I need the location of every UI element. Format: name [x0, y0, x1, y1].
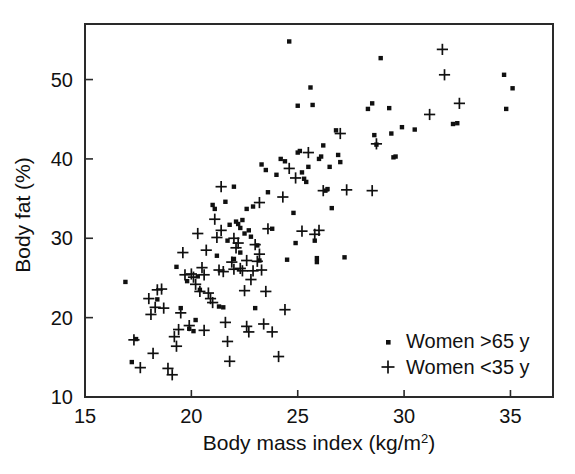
data-point-plus	[277, 191, 288, 202]
data-point-square	[213, 207, 217, 211]
data-point-plus	[243, 326, 254, 337]
data-point-square	[510, 86, 514, 90]
data-point-square	[291, 211, 295, 215]
data-point-square	[210, 203, 214, 207]
data-point-plus	[179, 269, 190, 280]
x-tick-label: 35	[499, 405, 521, 427]
data-point-square	[308, 85, 312, 89]
data-point-square	[191, 329, 195, 333]
data-point-square	[336, 153, 340, 157]
data-point-plus	[203, 287, 214, 298]
data-point-plus	[284, 163, 295, 174]
data-point-square	[300, 170, 304, 174]
y-tick-label: 20	[51, 307, 73, 329]
data-point-plus	[199, 325, 210, 336]
x-tick-label: 15	[74, 405, 96, 427]
data-point-square	[259, 162, 263, 166]
data-point-plus	[209, 214, 220, 225]
legend-plus-marker	[382, 361, 395, 374]
data-point-plus	[224, 356, 235, 367]
data-point-square	[400, 125, 404, 129]
x-axis-title: Body mass index (kg/m2)	[203, 431, 435, 454]
data-point-square	[451, 122, 455, 126]
data-point-square	[321, 143, 325, 147]
data-point-square	[378, 56, 382, 60]
data-point-square	[293, 241, 297, 245]
data-point-plus	[220, 317, 231, 328]
data-point-plus	[318, 185, 329, 196]
data-point-square	[387, 106, 391, 110]
data-point-square	[279, 157, 283, 161]
data-point-square	[251, 204, 255, 208]
data-point-plus	[439, 69, 450, 80]
data-point-square	[240, 218, 244, 222]
data-point-square	[306, 165, 310, 169]
data-point-plus	[245, 274, 256, 285]
data-point-plus	[222, 336, 233, 347]
data-point-square	[366, 107, 370, 111]
data-point-plus	[290, 172, 301, 183]
data-point-plus	[135, 362, 146, 373]
data-point-square	[389, 131, 393, 135]
data-point-square	[504, 107, 508, 111]
data-point-plus	[367, 185, 378, 196]
data-point-plus	[177, 247, 188, 258]
x-tick-label: 25	[287, 405, 309, 427]
data-point-square	[242, 231, 246, 235]
data-point-plus	[241, 255, 252, 266]
data-point-plus	[296, 226, 307, 237]
data-point-square	[319, 154, 323, 158]
data-point-square	[287, 39, 291, 43]
data-point-square	[238, 226, 242, 230]
data-point-square	[253, 306, 257, 310]
data-point-square	[227, 223, 231, 227]
data-point-square	[283, 159, 287, 163]
data-point-plus	[254, 197, 265, 208]
data-point-plus	[273, 351, 284, 362]
data-point-plus	[254, 249, 265, 260]
x-tick-label: 20	[180, 405, 202, 427]
data-point-plus	[260, 286, 271, 297]
data-point-plus	[250, 239, 261, 250]
data-point-square	[266, 190, 270, 194]
y-axis-title: Body fat (%)	[11, 157, 34, 273]
y-tick-label: 50	[51, 69, 73, 91]
data-point-plus	[237, 265, 248, 276]
data-point-square	[221, 305, 225, 309]
data-point-plus	[303, 147, 314, 158]
data-point-square	[264, 168, 268, 172]
data-point-square	[249, 234, 253, 238]
data-point-square	[174, 265, 178, 269]
data-point-plus	[201, 245, 212, 256]
data-point-square	[238, 250, 242, 254]
legend-square-marker	[386, 340, 391, 345]
data-point-square	[298, 149, 302, 153]
data-point-square	[327, 165, 331, 169]
data-point-square	[215, 254, 219, 258]
data-point-square	[342, 255, 346, 259]
data-point-square	[236, 222, 240, 226]
data-point-square	[413, 127, 417, 131]
plot-canvas: 1520253035 1020304050 Body mass index (k…	[0, 0, 575, 474]
legend: Women >65 y Women <35 y	[382, 330, 530, 378]
data-point-plus	[267, 326, 278, 337]
y-tick-label: 40	[51, 148, 73, 170]
data-point-plus	[371, 138, 382, 149]
data-point-square	[232, 184, 236, 188]
data-point-square	[155, 297, 159, 301]
data-point-square	[223, 200, 227, 204]
series-women-over-65-points	[123, 39, 515, 364]
x-tick-label: 30	[393, 405, 415, 427]
data-point-plus	[199, 269, 210, 280]
data-point-plus	[171, 341, 182, 352]
data-point-plus	[143, 293, 154, 304]
data-point-plus	[175, 307, 186, 318]
data-point-plus	[228, 264, 239, 275]
data-point-square	[244, 207, 248, 211]
data-point-plus	[262, 223, 273, 234]
data-point-square	[315, 260, 319, 264]
data-point-square	[193, 318, 197, 322]
data-point-plus	[437, 44, 448, 55]
data-point-square	[217, 304, 221, 308]
data-point-plus	[128, 334, 139, 345]
